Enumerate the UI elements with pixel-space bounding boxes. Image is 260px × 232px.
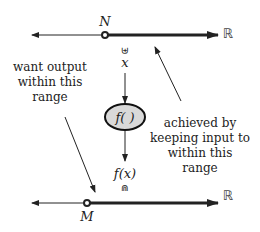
right-note-line-2: keeping input to (150, 131, 250, 145)
right-note: achieved by keeping input to within this… (150, 116, 250, 175)
output-subset-symbol: ⋒ (121, 183, 129, 193)
input-x-label: x (121, 55, 129, 70)
label-n: N (98, 14, 111, 29)
point-m (84, 200, 90, 206)
label-real-top: ℝ (223, 26, 234, 41)
function-box: f( ) (105, 104, 145, 130)
point-n (102, 32, 108, 38)
output-fx-label: f(x) (113, 166, 136, 181)
diagram: N ℝ ⊎ x f( ) f(x) ⋒ M ℝ want output with… (0, 0, 260, 232)
left-note-line-2: within this (18, 75, 83, 89)
right-note-line-3: within this (168, 146, 233, 160)
right-note-line-4: range (182, 161, 217, 175)
left-note-arrow (65, 117, 95, 192)
label-real-bottom: ℝ (223, 188, 234, 203)
left-note-line-1: want output (13, 60, 87, 74)
bottom-number-line: M ℝ (32, 188, 234, 224)
left-note: want output within this range (13, 60, 87, 104)
top-number-line: N ℝ (32, 14, 234, 41)
label-m: M (79, 209, 94, 224)
function-label: f( ) (114, 110, 134, 125)
right-note-arrow (155, 47, 181, 101)
right-note-line-1: achieved by (164, 116, 237, 130)
left-note-line-3: range (32, 90, 67, 104)
